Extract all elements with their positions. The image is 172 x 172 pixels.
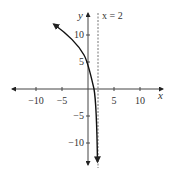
asymptote-label: x = 2 <box>102 10 123 21</box>
x-axis-label: x <box>157 89 163 101</box>
y-tick-label: 10 <box>74 29 84 40</box>
x-tick-label: 10 <box>135 95 145 106</box>
x-tick-label: 5 <box>112 95 117 106</box>
y-axis-label: y <box>77 9 83 21</box>
y-tick-label: 5 <box>79 56 84 67</box>
graph: −10 −5 5 10 10 5 −5 −10 x y x = 2 <box>0 0 172 172</box>
y-tick-label: −5 <box>73 110 84 121</box>
x-tick-label: −5 <box>57 95 68 106</box>
x-tick-label: −10 <box>28 95 44 106</box>
y-tick-label: −10 <box>68 137 84 148</box>
